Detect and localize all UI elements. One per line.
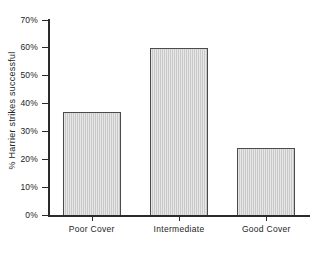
bar — [237, 148, 295, 215]
bar — [63, 112, 121, 215]
y-axis-tick-label: 20% — [0, 155, 38, 164]
x-axis-tick — [179, 216, 180, 221]
x-axis-tick-label: Good Cover — [218, 224, 314, 234]
y-axis-tick-label: 40% — [0, 99, 38, 108]
y-axis-tick-label: 60% — [0, 43, 38, 52]
bar-chart-figure: % Harrier strikes successful 70%60%50%40… — [0, 0, 320, 254]
bar — [150, 48, 208, 215]
y-axis-tick-label: 0% — [0, 211, 38, 220]
y-axis-tick-label: 50% — [0, 71, 38, 80]
plot-area — [48, 20, 310, 215]
x-axis-tick — [92, 216, 93, 221]
x-axis-tick-label: Poor Cover — [44, 224, 140, 234]
x-axis-tick — [266, 216, 267, 221]
x-axis-tick-label: Intermediate — [131, 224, 227, 234]
y-axis-tick-label: 10% — [0, 183, 38, 192]
y-axis-tick-label: 30% — [0, 127, 38, 136]
y-axis-tick-label: 70% — [0, 16, 38, 25]
